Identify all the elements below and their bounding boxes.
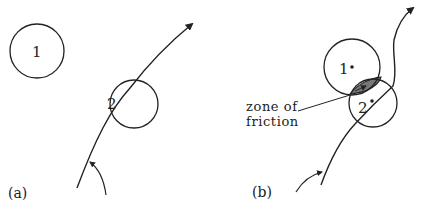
diagram-svg: 1 2 (a) 1: [0, 0, 423, 208]
rotation-arrow-b: [296, 172, 322, 192]
trajectory-path-b: [321, 8, 413, 185]
panel-b: 1 2 zone of friction (b): [246, 8, 413, 200]
annotation-zone-of: zone of: [246, 99, 298, 114]
circle-1-b-label: 1: [339, 60, 349, 78]
circle-2-a-label: 2: [107, 95, 117, 113]
circle-1-a: 1: [10, 24, 64, 78]
annotation-friction: friction: [246, 114, 299, 129]
caption-a: (a): [8, 185, 27, 201]
annotation-leader-line: [298, 95, 350, 111]
panel-a: 1 2 (a): [8, 24, 192, 201]
circle-2-b-center-dot: [370, 99, 374, 103]
diagram-canvas: 1 2 (a) 1: [0, 0, 423, 208]
circle-2-a: 2: [107, 80, 158, 128]
caption-b: (b): [252, 184, 272, 200]
circle-1-b-center-dot: [350, 65, 354, 69]
circle-1-a-label: 1: [32, 43, 42, 61]
circle-2-b-label: 2: [358, 99, 368, 117]
trajectory-path-a: [77, 24, 192, 188]
circle-1-b: 1: [324, 39, 380, 95]
rotation-arrow-a: [90, 162, 106, 195]
